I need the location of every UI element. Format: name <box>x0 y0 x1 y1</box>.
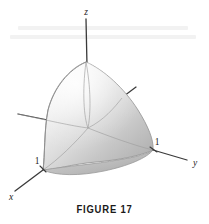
x-axis-line <box>15 170 43 191</box>
z-axis-label: z <box>83 7 88 17</box>
figure-illustration: z y x 1 1 <box>0 0 209 224</box>
figure-caption: FIGURE 17 <box>10 203 198 215</box>
y-axis-line <box>153 150 187 160</box>
x-axis-tick-label: 1 <box>35 156 40 166</box>
surface-highlight <box>43 62 153 170</box>
x-axis-label: x <box>8 192 14 202</box>
z-axis-line <box>86 19 87 66</box>
figure-panel: z y x 1 1 FIGURE 17 <box>0 0 209 224</box>
y-axis-tick-label: 1 <box>155 137 160 147</box>
y-axis-label: y <box>192 158 198 168</box>
